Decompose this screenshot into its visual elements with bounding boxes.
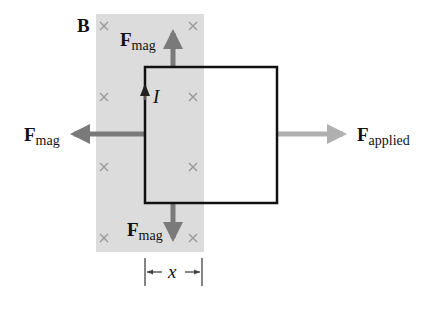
force-label-applied: Fapplied [357,124,410,148]
force-label-left: Fmag [24,124,60,148]
magnetic-force-diagram: B I Fmag Fmag Fmag Fapplied x [0,0,442,310]
field-label-b: B [77,15,90,36]
dimension-label-x: x [167,261,177,282]
